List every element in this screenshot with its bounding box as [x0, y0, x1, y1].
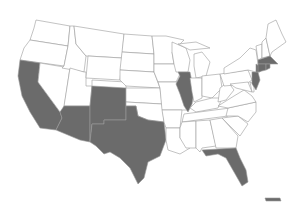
state-connecticut [258, 64, 266, 72]
state-maine [266, 20, 286, 56]
state-new-york [224, 48, 258, 74]
state-arkansas [162, 110, 182, 128]
state-north-dakota [122, 34, 154, 54]
state-wyoming [86, 56, 122, 80]
us-states-map [0, 0, 303, 204]
state-kansas [126, 88, 162, 104]
state-south-dakota [120, 52, 154, 72]
state-hawaii [265, 198, 281, 201]
state-rhode-island [266, 64, 270, 70]
state-arizona [56, 106, 90, 142]
state-florida [202, 148, 248, 186]
